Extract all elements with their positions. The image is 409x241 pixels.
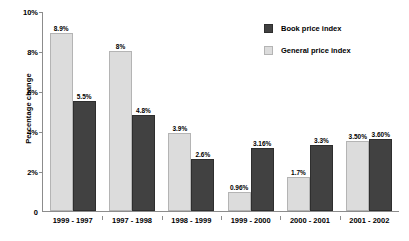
x-axis-tick-label: 1997 - 1998 (102, 216, 161, 225)
bar-value-label: 8% (116, 43, 125, 50)
x-axis-tick-mark (102, 216, 103, 220)
y-axis-tick-label: 10% (8, 8, 38, 17)
bar: 8.9% (50, 33, 73, 211)
bar: 4.8% (132, 115, 155, 211)
bar-fill (287, 177, 310, 211)
bar: 8% (109, 51, 132, 211)
x-axis-labels: 1999 - 19971997 - 19981998 - 19991999 - … (43, 216, 399, 225)
x-axis-line (42, 211, 399, 212)
y-axis-tick-label: 8% (8, 48, 38, 57)
bar-chart: Percentage change 02%4%6%8%10% 8.9%5.5%8… (0, 0, 409, 241)
legend: Book price index General price index (264, 24, 351, 68)
x-axis-tick-mark (280, 216, 281, 220)
bar-fill (132, 115, 155, 211)
bar-fill (369, 139, 392, 211)
y-axis-tick-label: 0 (8, 208, 38, 217)
bar-fill (228, 192, 251, 211)
x-axis-tick-label: 1999 - 1997 (43, 216, 102, 225)
bar-value-label: 1.7% (291, 169, 306, 176)
bar-fill (346, 141, 369, 211)
bar-fill (251, 148, 274, 211)
x-axis-tick-label: 2001 - 2002 (340, 216, 399, 225)
y-axis-tick-label: 2% (8, 168, 38, 177)
bar: 5.5% (73, 101, 96, 211)
y-axis-tick-label: 4% (8, 128, 38, 137)
bar: 1.7% (287, 177, 310, 211)
bar-group: 3.9%2.6% (162, 12, 221, 211)
legend-item-general-price-index: General price index (264, 46, 351, 55)
y-axis-tick-label: 6% (8, 88, 38, 97)
x-axis-tick-mark (162, 216, 163, 220)
legend-swatch-icon (264, 24, 273, 33)
bar-group: 8%4.8% (102, 12, 161, 211)
bar: 3.16% (251, 148, 274, 211)
x-axis-tick-label: 1998 - 1999 (162, 216, 221, 225)
bar-value-label: 4.8% (136, 107, 151, 114)
legend-item-book-price-index: Book price index (264, 24, 351, 33)
y-axis-title: Percentage change (24, 39, 33, 179)
bar: 0.96% (228, 192, 251, 211)
bar-value-label: 2.6% (195, 151, 210, 158)
bar-value-label: 0.96% (230, 184, 248, 191)
bar-group: 8.9%5.5% (43, 12, 102, 211)
bar-value-label: 3.60% (372, 131, 390, 138)
bar: 3.60% (369, 139, 392, 211)
bar: 3.50% (346, 141, 369, 211)
x-axis-tick-label: 2000 - 2001 (280, 216, 339, 225)
bar-value-label: 5.5% (77, 93, 92, 100)
legend-swatch-icon (264, 46, 273, 55)
bar-value-label: 3.9% (172, 125, 187, 132)
bar: 2.6% (191, 159, 214, 211)
x-axis-tick-label: 1999 - 2000 (221, 216, 280, 225)
bar-value-label: 8.9% (54, 25, 69, 32)
bar-fill (109, 51, 132, 211)
bar-fill (310, 145, 333, 211)
bar-fill (191, 159, 214, 211)
legend-item-label: Book price index (281, 24, 341, 33)
x-axis-tick-mark (340, 216, 341, 220)
legend-item-label: General price index (281, 46, 351, 55)
bar-fill (50, 33, 73, 211)
bar-value-label: 3.50% (349, 133, 367, 140)
bar-fill (168, 133, 191, 211)
bar-value-label: 3.16% (253, 140, 271, 147)
bar-value-label: 3.3% (314, 137, 329, 144)
bar: 3.9% (168, 133, 191, 211)
bar-fill (73, 101, 96, 211)
bar: 3.3% (310, 145, 333, 211)
x-axis-tick-mark (221, 216, 222, 220)
